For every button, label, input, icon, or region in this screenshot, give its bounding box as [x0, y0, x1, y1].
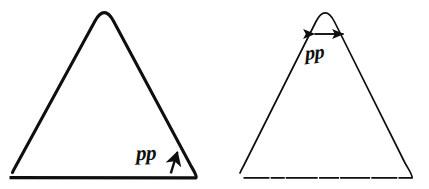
- left-pp-label: pp: [136, 141, 157, 167]
- left-gap-arrow: [171, 152, 178, 173]
- figure-linework: [0, 0, 429, 189]
- figure-canvas: pp pp: [0, 0, 429, 189]
- right-triangle-group: [240, 13, 413, 178]
- right-triangle-outline: [240, 13, 412, 178]
- left-triangle-group: [10, 13, 197, 178]
- left-triangle-outline: [13, 13, 197, 178]
- right-pp-label: pp: [304, 40, 325, 65]
